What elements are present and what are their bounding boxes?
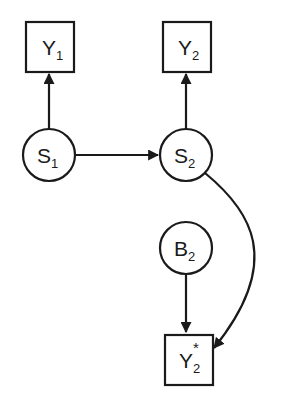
node-s1: S1: [23, 129, 75, 181]
edges: [49, 74, 254, 348]
edge-s2-y2star: [205, 173, 254, 348]
node-s2: S2: [160, 129, 212, 181]
node-b2: B2: [160, 222, 212, 274]
node-y2: Y2: [163, 22, 211, 72]
node-y1: Y1: [26, 22, 74, 72]
node-y2-star-superscript: *: [193, 339, 199, 356]
diagram-canvas: Y1 Y2 S1 S2 B2 Y2 *: [0, 0, 288, 406]
node-y2-star: Y2 *: [165, 335, 213, 385]
